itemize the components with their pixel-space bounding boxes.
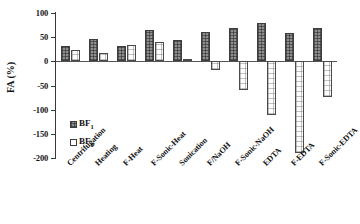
y-axis-tick-label: -100 [4,106,48,115]
legend-label-text: BF [79,118,91,128]
legend-swatch-icon [70,139,77,146]
bar-group [280,13,308,158]
bar-bf0-4 [183,59,192,61]
bar-group [224,13,252,158]
chart-legend: BF1BF0 [70,117,94,153]
legend-item-bf0[interactable]: BF0 [70,135,94,149]
bar-bf0-8 [295,61,304,153]
bar-bf1-9 [313,28,322,62]
bar-bf0-1 [99,53,108,62]
bar-bf0-3 [155,42,164,61]
y-axis-tick-label: -50 [4,82,48,91]
legend-label-text: BF [79,136,91,146]
bar-bf1-5 [201,32,210,61]
y-axis-tick-label: -200 [4,154,48,163]
legend-swatch-icon [70,121,77,128]
legend-label: BF0 [79,136,94,148]
y-axis-tick-label: 50 [4,33,48,42]
legend-label: BF1 [79,118,94,130]
legend-label-subscript: 1 [91,123,94,130]
bar-bf0-2 [127,45,136,61]
bar-bf1-4 [173,40,182,62]
y-axis-title: FA (%) [5,46,16,110]
bar-group [196,13,224,158]
legend-label-subscript: 0 [91,141,94,148]
legend-item-bf1[interactable]: BF1 [70,117,94,131]
bar-bf1-8 [285,33,294,61]
bar-bf0-0 [71,50,80,61]
bar-bf1-0 [61,46,70,61]
y-axis-tick-label: -150 [4,130,48,139]
bar-bf0-7 [267,61,276,115]
bar-bf1-7 [257,23,266,62]
bar-group [140,13,168,158]
bar-bf1-1 [89,39,98,62]
bar-group [308,13,336,158]
bar-bf1-3 [145,30,154,61]
bar-bf0-9 [323,61,332,97]
y-axis-tick-label: 0 [4,57,48,66]
y-axis-tick [51,158,56,159]
y-axis-tick-label: 100 [4,9,48,18]
bar-group [112,13,140,158]
bar-bf0-5 [211,61,220,69]
bar-bf1-2 [117,46,126,61]
bar-bf1-6 [229,28,238,61]
bar-bf0-6 [239,61,248,90]
